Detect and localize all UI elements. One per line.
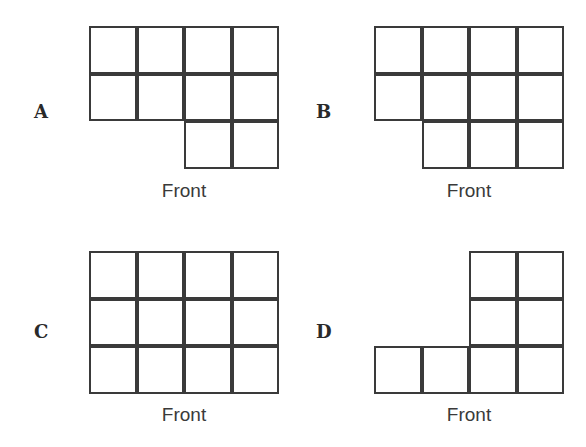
grid-cell <box>137 26 185 74</box>
front-caption: Front <box>409 180 529 202</box>
front-caption: Front <box>124 180 244 202</box>
grid-cell <box>184 299 232 347</box>
grid-cell <box>89 346 137 394</box>
grid-cell <box>232 251 280 299</box>
grid-cell <box>517 346 565 394</box>
grid-cell <box>374 26 422 74</box>
grid-cell <box>469 26 517 74</box>
grid-cell <box>184 346 232 394</box>
grid-cell <box>517 121 565 169</box>
option-label: A <box>34 101 48 122</box>
grid-cell <box>469 74 517 122</box>
grid-cell <box>232 26 280 74</box>
grid-cell <box>184 121 232 169</box>
grid-cell <box>137 299 185 347</box>
grid-cell <box>517 251 565 299</box>
grid-cell <box>517 299 565 347</box>
grid-cell <box>89 299 137 347</box>
grid-cell <box>232 299 280 347</box>
grid-cell <box>184 26 232 74</box>
grid-cell <box>89 26 137 74</box>
grid-cell <box>184 74 232 122</box>
grid-cell <box>232 346 280 394</box>
grid-cell <box>232 74 280 122</box>
grid-cell <box>422 346 470 394</box>
grid-cell <box>137 251 185 299</box>
grid-cell <box>89 74 137 122</box>
grid-cell <box>137 74 185 122</box>
option-label: B <box>316 101 331 122</box>
grid-cell <box>422 26 470 74</box>
front-caption: Front <box>124 404 244 426</box>
front-caption: Front <box>409 404 529 426</box>
grid-cell <box>89 251 137 299</box>
grid-cell <box>374 74 422 122</box>
grid-cell <box>469 121 517 169</box>
grid-cell <box>232 121 280 169</box>
grid-cell <box>517 26 565 74</box>
grid-cell <box>422 74 470 122</box>
grid-cell <box>469 251 517 299</box>
grid-cell <box>374 346 422 394</box>
grid-cell <box>137 346 185 394</box>
option-label: D <box>316 321 332 342</box>
grid-cell <box>184 251 232 299</box>
grid-cell <box>469 299 517 347</box>
grid-cell <box>517 74 565 122</box>
option-label: C <box>34 321 48 342</box>
grid-cell <box>469 346 517 394</box>
grid-cell <box>422 121 470 169</box>
